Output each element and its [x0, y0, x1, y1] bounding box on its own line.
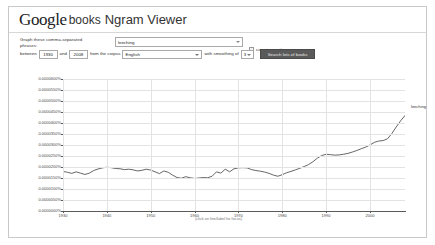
- between-label: between: [20, 51, 37, 56]
- y-axis-tick-label: 0.0000150%: [39, 176, 61, 180]
- gridline-horizontal: [63, 112, 405, 113]
- x-axis-tick-mark: [370, 211, 371, 213]
- y-axis-tick-label: 0.0000400%: [39, 121, 61, 125]
- chart-caption: (click on line/label for focus): [9, 217, 428, 221]
- plot-area[interactable]: 0.0000000%0.0000050%0.0000100%0.0000150%…: [63, 79, 405, 211]
- ngram-viewer-page: GooglebooksNgram Viewer Graph these comm…: [0, 0, 435, 245]
- gridline-horizontal: [63, 200, 405, 201]
- books-wordmark: books: [69, 13, 101, 27]
- x-axis-tick-mark: [63, 211, 64, 213]
- x-axis-tick-mark: [282, 211, 283, 213]
- gridline-vertical: [151, 79, 152, 211]
- gridline-horizontal: [63, 134, 405, 135]
- x-axis-tick-mark: [195, 211, 196, 213]
- phrases-label: Graph these comma-separated phrases:: [20, 37, 92, 48]
- x-axis: [63, 211, 406, 212]
- x-axis-tick-mark: [151, 211, 152, 213]
- series-label-leeching[interactable]: leeching: [411, 104, 426, 109]
- y-axis-tick-label: 0.0000050%: [39, 198, 61, 202]
- gridline-horizontal: [63, 156, 405, 157]
- x-axis-tick-mark: [326, 211, 327, 213]
- x-axis-tick-mark: [107, 211, 108, 213]
- y-axis-tick-label: 0.0000100%: [39, 187, 61, 191]
- app-card: GooglebooksNgram Viewer Graph these comm…: [8, 6, 427, 238]
- query-input-value: leeching: [118, 40, 134, 45]
- y-axis-tick-label: 0.0000350%: [39, 132, 61, 136]
- page-title: Ngram Viewer: [105, 12, 187, 27]
- gridline-vertical: [63, 79, 64, 211]
- y-axis-tick-label: 0.0000200%: [39, 165, 61, 169]
- chevron-down-icon[interactable]: [236, 41, 240, 43]
- smoothing-select[interactable]: 3: [241, 50, 254, 59]
- gridline-horizontal: [63, 123, 405, 124]
- gridline-horizontal: [63, 101, 405, 102]
- gridline-vertical: [282, 79, 283, 211]
- gridline-horizontal: [63, 189, 405, 190]
- and-label: and: [60, 51, 67, 56]
- search-button[interactable]: Search lots of books: [260, 49, 316, 59]
- gridline-horizontal: [63, 167, 405, 168]
- y-axis-tick-label: 0.0000300%: [39, 143, 61, 147]
- x-axis-tick-mark: [238, 211, 239, 213]
- gridline-horizontal: [63, 178, 405, 179]
- y-axis-tick-label: 0.0000250%: [39, 154, 61, 158]
- app-logo[interactable]: GooglebooksNgram Viewer: [19, 11, 187, 28]
- gridline-vertical: [107, 79, 108, 211]
- gridline-horizontal: [63, 90, 405, 91]
- gridline-vertical: [326, 79, 327, 211]
- query-controls: Graph these comma-separated phrases: lee…: [9, 33, 426, 71]
- corpus-label: from the corpus: [90, 51, 121, 56]
- corpus-select[interactable]: English: [122, 50, 202, 59]
- gridline-vertical: [195, 79, 196, 211]
- corpus-select-value: English: [125, 52, 139, 57]
- app-header: GooglebooksNgram Viewer: [9, 7, 426, 33]
- y-axis-tick-label: 0.0000600%: [39, 77, 61, 81]
- ngram-chart[interactable]: 0.0000000%0.0000050%0.0000100%0.0000150%…: [9, 71, 428, 229]
- y-axis-tick-label: 0.0000450%: [39, 110, 61, 114]
- chevron-down-icon: [195, 54, 199, 56]
- gridline-vertical: [238, 79, 239, 211]
- gridline-horizontal: [63, 79, 405, 80]
- y-axis-tick-label: 0.0000500%: [39, 99, 61, 103]
- gridline-vertical: [370, 79, 371, 211]
- gridline-horizontal: [63, 145, 405, 146]
- range-corpus-row: between1930and2008from the corpusEnglish…: [20, 49, 315, 59]
- y-axis-tick-label: 0.0000550%: [39, 88, 61, 92]
- query-input[interactable]: leeching: [115, 37, 243, 47]
- chevron-down-icon: [247, 54, 251, 56]
- year-end-input[interactable]: 2008: [69, 50, 88, 59]
- year-start-input[interactable]: 1930: [39, 50, 58, 59]
- google-wordmark: Google: [19, 10, 67, 29]
- smoothing-label: with smoothing of: [204, 51, 238, 56]
